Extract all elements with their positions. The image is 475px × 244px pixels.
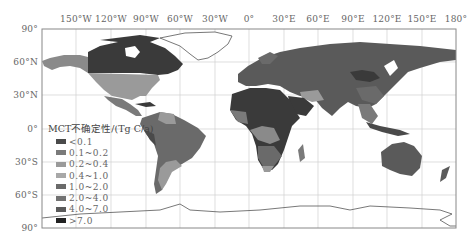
- legend-swatch: [56, 162, 66, 167]
- legend-swatch: [56, 184, 66, 189]
- legend-label: <0.1: [69, 137, 93, 147]
- legend-items: <0.10.1~0.20.2~0.40.4~1.01.0~2.02.0~4.04…: [48, 136, 154, 226]
- legend-swatch: [56, 139, 66, 144]
- legend-swatch: [56, 150, 66, 155]
- legend-swatch: [56, 196, 66, 201]
- legend-item: <0.1: [56, 136, 154, 147]
- north-america: [42, 35, 183, 116]
- legend-swatch: [56, 207, 66, 212]
- legend-label: >7.0: [69, 216, 93, 226]
- legend-label: 0.4~1.0: [69, 171, 109, 181]
- legend-item: 0.4~1.0: [56, 170, 154, 181]
- legend-item: 0.1~0.2: [56, 147, 154, 158]
- legend-item: 2.0~4.0: [56, 192, 154, 203]
- legend: MCT不确定性/(Tg C/a) <0.10.1~0.20.2~0.40.4~1…: [48, 121, 154, 226]
- legend-title: MCT不确定性/(Tg C/a): [48, 121, 154, 135]
- legend-swatch: [56, 218, 66, 223]
- legend-item: 0.2~0.4: [56, 159, 154, 170]
- legend-item: 1.0~2.0: [56, 181, 154, 192]
- legend-label: 1.0~2.0: [69, 182, 109, 192]
- legend-label: 0.1~0.2: [69, 148, 109, 158]
- legend-label: 0.2~0.4: [69, 159, 109, 169]
- legend-item: 4.0~7.0: [56, 204, 154, 215]
- legend-label: 2.0~4.0: [69, 193, 109, 203]
- legend-label: 4.0~7.0: [69, 204, 109, 214]
- legend-item: >7.0: [56, 215, 154, 226]
- legend-swatch: [56, 173, 66, 178]
